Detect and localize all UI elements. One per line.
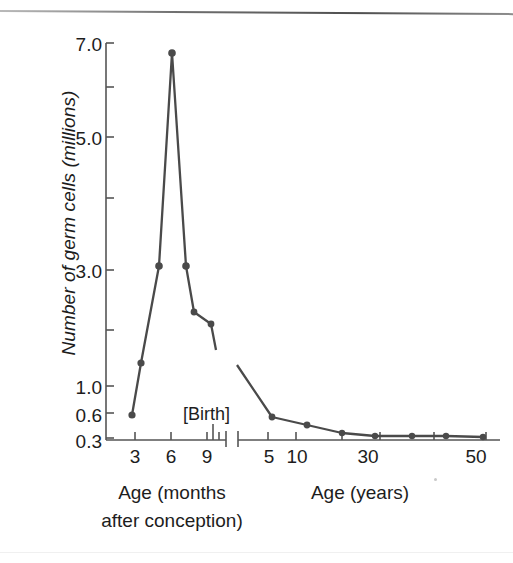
data-point	[372, 433, 378, 439]
data-point	[480, 434, 486, 440]
series-line-months	[132, 53, 216, 415]
data-point	[128, 411, 135, 418]
data-point	[339, 430, 345, 436]
data-point	[137, 359, 144, 366]
data-point	[168, 49, 176, 57]
series-markers	[128, 49, 486, 440]
data-point	[208, 321, 215, 328]
axes-group	[106, 43, 500, 447]
data-point	[191, 309, 198, 316]
series-line-years	[237, 365, 483, 437]
data-point	[182, 262, 190, 270]
data-point	[304, 422, 311, 429]
germ-cell-chart: Number of germ cells (millions) 7.0 5.0 …	[0, 0, 513, 563]
scan-speck	[434, 478, 437, 481]
data-point	[155, 262, 163, 270]
data-point	[409, 433, 415, 439]
data-point	[443, 433, 449, 439]
data-point	[269, 414, 276, 421]
figure-page: Number of germ cells (millions) 7.0 5.0 …	[0, 0, 513, 563]
